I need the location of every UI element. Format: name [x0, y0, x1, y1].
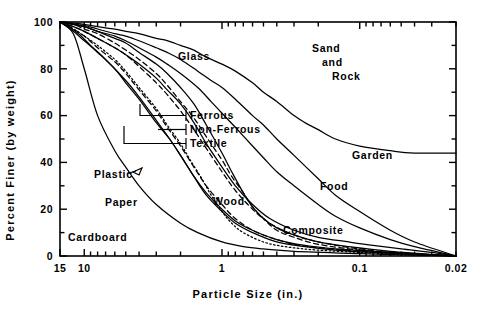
- chart-background: [0, 0, 497, 313]
- x-tick-label: 1: [219, 262, 225, 274]
- curve-label-non-ferrous: Non-Ferrous: [190, 123, 261, 135]
- curve-label-garden: Garden: [352, 149, 393, 161]
- curve-label-ferrous: Ferrous: [190, 109, 234, 121]
- y-tick-label: 60: [40, 109, 53, 121]
- x-axis-title: Particle Size (in.): [193, 288, 304, 300]
- curve-label-and: and: [322, 56, 343, 68]
- x-tick-label: 0.1: [352, 262, 368, 274]
- chart-figure: 020406080100151010.10.02 GlassSandandRoc…: [0, 0, 497, 313]
- curve-label-plastic: Plastic: [94, 168, 133, 180]
- particle-size-distribution-chart: 020406080100151010.10.02 GlassSandandRoc…: [0, 0, 497, 313]
- curve-label-glass: Glass: [178, 50, 210, 62]
- curve-label-wood: Wood: [213, 195, 245, 207]
- curve-label-paper: Paper: [105, 196, 138, 208]
- x-tick-label: 0.02: [445, 262, 467, 274]
- curve-label-cardboard: Cardboard: [68, 231, 127, 243]
- curve-label-rock: Rock: [332, 70, 360, 82]
- y-tick-label: 80: [40, 63, 53, 75]
- curve-label-textile: Textile: [190, 137, 227, 149]
- curve-label-composite: Composite: [283, 224, 344, 236]
- y-tick-label: 100: [34, 16, 53, 28]
- y-tick-label: 40: [40, 156, 53, 168]
- x-tick-label: 15: [54, 262, 67, 274]
- y-tick-label: 0: [47, 250, 53, 262]
- curve-label-food: Food: [320, 180, 348, 192]
- curve-label-sand: Sand: [312, 42, 340, 54]
- y-tick-label: 20: [40, 203, 53, 215]
- x-tick-label: 10: [78, 262, 91, 274]
- y-axis-title: Percent Finer (by weight): [4, 79, 16, 240]
